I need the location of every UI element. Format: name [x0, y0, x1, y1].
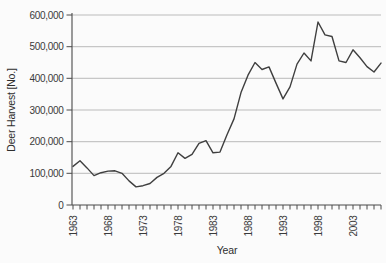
deer-harvest-line-chart: 0100,000200,000300,000400,000500,000600,…: [0, 0, 386, 263]
y-tick-label: 300,000: [29, 105, 64, 116]
y-tick-label: 0: [58, 200, 64, 211]
y-tick-label: 100,000: [29, 168, 64, 179]
plot-area: 0100,000200,000300,000400,000500,000600,…: [29, 10, 381, 237]
x-tick-label: 1998: [313, 215, 324, 237]
x-tick-label: 1973: [138, 215, 149, 237]
x-tick-label: 1988: [243, 215, 254, 237]
x-axis-title: Year: [217, 244, 238, 256]
x-tick-label: 1963: [68, 215, 79, 237]
y-tick-label: 600,000: [29, 10, 64, 21]
x-tick-label: 1983: [208, 215, 219, 237]
x-tick-label: 1968: [103, 215, 114, 237]
x-tick-label: 1993: [278, 215, 289, 237]
y-axis-title: Deer Harvest [No.]: [5, 68, 17, 152]
chart-canvas: 0100,000200,000300,000400,000500,000600,…: [0, 0, 386, 263]
y-tick-label: 500,000: [29, 41, 64, 52]
y-tick-label: 400,000: [29, 73, 64, 84]
y-tick-label: 200,000: [29, 136, 64, 147]
x-tick-label: 2003: [348, 215, 359, 237]
x-tick-label: 1978: [173, 215, 184, 237]
